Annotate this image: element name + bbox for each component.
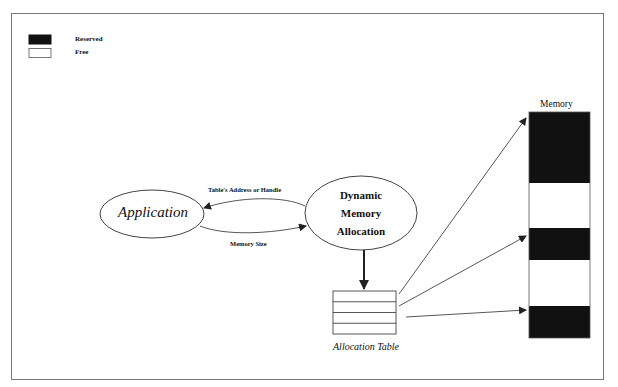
table-to-memory-arrow-2 bbox=[399, 236, 526, 306]
edge-handle-label: Table's Address or Handle bbox=[208, 186, 281, 193]
table-to-memory-arrow-1 bbox=[399, 118, 526, 294]
edge-size-label: Memory Size bbox=[230, 240, 267, 247]
allocation-table-label: Allocation Table bbox=[333, 341, 399, 352]
dma-label-line-1: Dynamic bbox=[318, 186, 404, 204]
dma-label-line-3: Allocation bbox=[318, 222, 404, 240]
memory-label: Memory bbox=[540, 99, 573, 109]
memory-block-reserved-1 bbox=[529, 112, 590, 183]
memory-block-reserved-2 bbox=[529, 228, 590, 260]
dma-label-line-2: Memory bbox=[318, 204, 404, 222]
memory-block-free-1 bbox=[529, 183, 590, 228]
dma-label: Dynamic Memory Allocation bbox=[318, 186, 404, 240]
memory-column bbox=[529, 112, 590, 338]
diagram-canvas bbox=[0, 0, 618, 387]
legend-free-label: Free bbox=[75, 48, 88, 56]
memory-block-reserved-3 bbox=[529, 306, 590, 338]
legend-reserved-swatch bbox=[29, 35, 51, 44]
legend-free-swatch bbox=[29, 49, 51, 58]
legend-reserved-label: Reserved bbox=[75, 35, 103, 43]
table-to-memory-arrow-3 bbox=[406, 310, 526, 317]
memory-block-free-2 bbox=[529, 260, 590, 306]
allocation-table bbox=[333, 291, 396, 334]
application-label: Application bbox=[118, 204, 188, 221]
edge-handle-arrow bbox=[204, 199, 305, 208]
edge-size-arrow bbox=[200, 226, 306, 233]
